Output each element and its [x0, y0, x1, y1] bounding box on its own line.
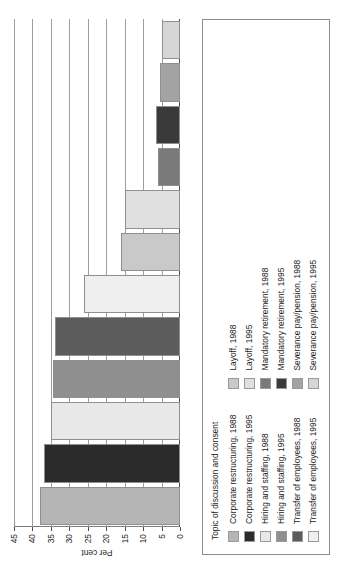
y-axis-tick-label: 5 — [157, 534, 167, 539]
y-axis-tick-label: 0 — [175, 534, 185, 539]
bar — [84, 275, 180, 313]
legend-item-label: Mandatory retirement, 1995 — [276, 268, 286, 371]
tick-mark — [32, 527, 33, 531]
legend-swatch-icon — [308, 378, 319, 389]
bar — [121, 233, 180, 271]
legend-item[interactable]: Hiring and staffing, 1995 — [273, 415, 289, 542]
legend-item[interactable]: Layoff, 1995 — [241, 260, 257, 389]
legend-item-label: Transfer of employees, 1995 — [308, 418, 318, 524]
legend-title: Topic of discussion and consent — [210, 30, 220, 540]
legend-item[interactable]: Corporate restructuring, 1995 — [241, 415, 257, 542]
legend-item-label: Severance pay/pension, 1995 — [308, 260, 318, 371]
legend-swatch-icon — [276, 378, 287, 389]
y-axis-tick-label: 15 — [120, 534, 130, 543]
tick-mark — [162, 527, 163, 531]
y-axis-tick-label: 30 — [64, 534, 74, 543]
legend-item-label: Transfer of employees, 1988 — [292, 418, 302, 524]
legend-item[interactable]: Hiring and staffing, 1988 — [257, 415, 273, 542]
legend-item[interactable]: Severance pay/pension, 1988 — [289, 260, 305, 389]
tick-mark — [125, 527, 126, 531]
legend-item-label: Layoff, 1988 — [228, 325, 238, 371]
legend-swatch-icon — [228, 378, 239, 389]
legend-swatch-icon — [260, 531, 271, 542]
legend-item[interactable]: Mandatory retirement, 1995 — [273, 260, 289, 389]
bar — [51, 402, 180, 440]
legend-item[interactable]: Severance pay/pension, 1995 — [305, 260, 321, 389]
bar — [162, 21, 180, 59]
bar-chart: Per cent 051015202530354045 — [14, 19, 180, 527]
legend-swatch-icon — [292, 531, 303, 542]
bar — [125, 190, 180, 228]
legend-item[interactable]: Corporate restructuring, 1988 — [225, 415, 241, 542]
tick-mark — [69, 527, 70, 531]
legend-item-label: Hiring and staffing, 1988 — [260, 433, 270, 524]
legend-item-label: Severance pay/pension, 1988 — [292, 260, 302, 371]
y-axis-tick-label: 35 — [46, 534, 56, 543]
bar — [156, 106, 180, 144]
legend-swatch-icon — [308, 531, 319, 542]
tick-mark — [180, 527, 181, 531]
legend-items: Corporate restructuring, 1988Corporate r… — [225, 30, 323, 542]
bar — [40, 487, 180, 525]
legend: Topic of discussion and consent Corporat… — [202, 19, 330, 555]
bar — [53, 360, 180, 398]
y-axis-title: Per cent — [81, 548, 112, 558]
legend-swatch-icon — [244, 531, 255, 542]
tick-mark — [88, 527, 89, 531]
tick-mark — [143, 527, 144, 531]
tick-mark — [14, 527, 15, 531]
y-axis-tick-label: 25 — [83, 534, 93, 543]
legend-swatch-icon — [276, 531, 287, 542]
y-axis-tick-label: 45 — [9, 534, 19, 543]
legend-item[interactable]: Transfer of employees, 1988 — [289, 415, 305, 542]
tick-mark — [106, 527, 107, 531]
legend-item[interactable]: Layoff, 1988 — [225, 260, 241, 389]
bar — [160, 63, 180, 101]
legend-item[interactable]: Transfer of employees, 1995 — [305, 415, 321, 542]
legend-item-label: Layoff, 1995 — [244, 325, 254, 371]
y-axis-tick-label: 20 — [101, 534, 111, 543]
legend-swatch-icon — [260, 378, 271, 389]
legend-swatch-icon — [228, 531, 239, 542]
legend-item[interactable]: Mandatory retirement, 1988 — [257, 260, 273, 389]
y-axis-tick-label: 10 — [138, 534, 148, 543]
legend-item-label: Corporate restructuring, 1988 — [228, 415, 238, 524]
legend-item-label: Mandatory retirement, 1988 — [260, 268, 270, 371]
y-axis-tick-label: 40 — [27, 534, 37, 543]
bars-layer — [14, 19, 180, 527]
legend-item-label: Hiring and staffing, 1995 — [276, 433, 286, 524]
bar — [158, 148, 180, 186]
legend-swatch-icon — [292, 378, 303, 389]
rotated-figure-container: Per cent 051015202530354045 Topic of dis… — [0, 0, 353, 575]
legend-swatch-icon — [244, 378, 255, 389]
bar — [55, 317, 180, 355]
tick-mark — [51, 527, 52, 531]
legend-item-label: Corporate restructuring, 1995 — [244, 415, 254, 524]
bar — [44, 444, 180, 482]
